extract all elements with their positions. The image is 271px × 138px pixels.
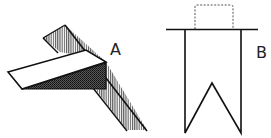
dashed-outline [195, 5, 233, 29]
diagram-canvas: A B [0, 0, 271, 138]
figure-b: B [166, 5, 267, 133]
label-b: B [256, 43, 267, 62]
label-a: A [110, 40, 121, 59]
swallow-tail-tab [185, 30, 241, 133]
figure-a: A [8, 25, 147, 131]
